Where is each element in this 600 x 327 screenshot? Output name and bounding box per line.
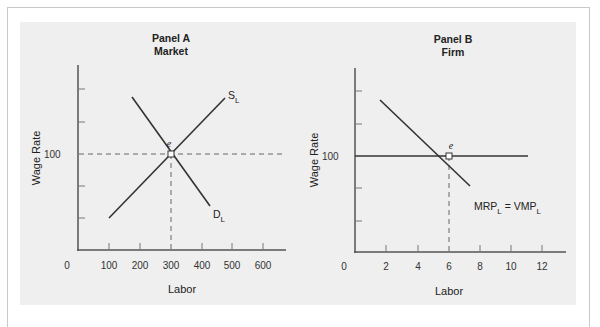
panel-b-title: Panel B xyxy=(434,33,473,45)
panel-b: Panel B Firm e MRPL = VMPL xyxy=(308,33,566,297)
panel-b-subtitle: Firm xyxy=(442,46,465,58)
panel-b-x-tick: 4 xyxy=(415,261,421,272)
panel-a-x-tick: 600 xyxy=(255,260,272,271)
panel-a-title: Panel A xyxy=(152,32,191,44)
panel-a-equilibrium-label: e xyxy=(167,138,172,149)
panel-b-x-tick: 12 xyxy=(536,261,548,272)
panel-b-equilibrium-label: e xyxy=(449,140,454,151)
panel-b-x-label: Labor xyxy=(435,285,463,297)
panel-b-origin: 0 xyxy=(341,261,347,272)
panel-a-x-tick: 100 xyxy=(101,260,118,271)
panel-b-y-label: Wage Rate xyxy=(308,133,320,188)
panel-b-x-ticks xyxy=(386,245,542,252)
panel-b-equilibrium-point xyxy=(446,153,452,159)
supply-curve xyxy=(109,98,225,218)
panel-a-x-tick: 300 xyxy=(163,260,180,271)
panel-a-x-label: Labor xyxy=(168,283,196,295)
panel-b-y-tick-100: 100 xyxy=(322,151,339,162)
panel-a-origin: 0 xyxy=(64,260,70,271)
panel-b-x-tick: 2 xyxy=(383,261,389,272)
panel-a-x-tick: 500 xyxy=(224,260,241,271)
mrp-vmp-label: MRPL = VMPL xyxy=(474,200,542,216)
panel-a-x-tick: 200 xyxy=(132,260,149,271)
panel-a-y-label: Wage Rate xyxy=(30,131,42,186)
panel-a: Panel A Market e SL DL xyxy=(30,32,286,295)
panel-b-x-tick: 8 xyxy=(477,261,483,272)
panel-a-x-ticks xyxy=(109,243,263,250)
mrp-curve xyxy=(380,100,470,186)
panel-b-x-tick: 6 xyxy=(446,261,452,272)
panel-a-x-tick: 400 xyxy=(194,260,211,271)
panel-a-y-tick-100: 100 xyxy=(44,149,61,160)
panel-b-x-tick: 10 xyxy=(505,261,517,272)
panel-a-equilibrium-point xyxy=(168,151,174,157)
panel-a-subtitle: Market xyxy=(154,45,188,57)
demand-label: DL xyxy=(213,208,226,224)
supply-label: SL xyxy=(228,89,240,105)
